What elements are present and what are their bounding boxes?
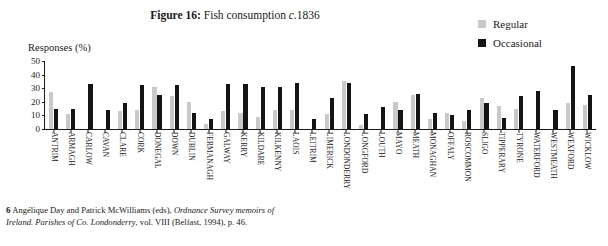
bar-occasional <box>536 91 540 129</box>
x-axis-label: OFFALY <box>445 132 454 160</box>
bar-series-container <box>45 61 596 129</box>
x-axis-label: LONGFORD <box>359 132 368 173</box>
bar-group <box>217 61 234 129</box>
x-label-cell: LAOIS <box>286 132 303 198</box>
bar-regular <box>118 111 122 129</box>
x-label-cell: LONDONDERRY <box>338 132 355 198</box>
bar-occasional <box>553 110 557 129</box>
bar-group <box>441 61 458 129</box>
bar-group <box>79 61 96 129</box>
x-axis-label: WEXFORD <box>566 132 575 170</box>
bar-occasional <box>140 85 144 129</box>
bar-occasional <box>433 113 437 129</box>
x-axis-label: WESTMEATH <box>548 132 557 179</box>
x-axis-label: MEATH <box>411 132 420 158</box>
bar-occasional <box>450 115 454 129</box>
x-label-cell: KILDARE <box>252 132 269 198</box>
bar-occasional <box>571 66 575 129</box>
bar-occasional <box>502 118 506 129</box>
bar-group <box>166 61 183 129</box>
x-label-cell: ANTRIM <box>45 132 62 198</box>
bar-regular <box>204 124 208 129</box>
bar-regular <box>221 111 225 129</box>
x-label-cell: LOUTH <box>372 132 389 198</box>
bar-occasional <box>192 113 196 129</box>
x-label-cell: WICKLOW <box>579 132 596 198</box>
bar-occasional <box>347 83 351 129</box>
bar-occasional <box>278 87 282 129</box>
bar-occasional <box>364 114 368 129</box>
bar-regular <box>445 113 449 129</box>
bar-regular <box>66 114 70 129</box>
bar-occasional <box>106 110 110 129</box>
bar-regular <box>342 81 346 129</box>
y-tick-label: 0 <box>20 125 40 134</box>
x-axis-label: CAVAN <box>101 132 110 157</box>
x-label-cell: WEXFORD <box>562 132 579 198</box>
x-axis-label: FERMANAGH <box>204 132 213 180</box>
x-label-cell: CARLOW <box>79 132 96 198</box>
bar-group <box>45 61 62 129</box>
x-label-cell: MEATH <box>407 132 424 198</box>
x-axis-label: ANTRIM <box>49 132 58 162</box>
bar-occasional <box>88 84 92 129</box>
y-tick-label: 30 <box>20 84 40 93</box>
x-axis-label: ARMAGH <box>66 132 75 166</box>
bar-regular <box>566 103 570 129</box>
x-label-cell: ARMAGH <box>62 132 79 198</box>
bar-occasional <box>416 94 420 129</box>
bar-group <box>372 61 389 129</box>
bar-regular <box>325 114 329 129</box>
bar-occasional <box>381 107 385 129</box>
bar-regular <box>238 113 242 129</box>
bar-group <box>303 61 320 129</box>
bar-group <box>338 61 355 129</box>
bar-occasional <box>330 98 334 129</box>
footnote-text-b: , vol. VIII (Belfast, 1994), p. 46. <box>136 217 248 227</box>
x-axis-label: LONDONDERRY <box>342 132 351 190</box>
bar-occasional <box>175 85 179 129</box>
y-tick-label: 50 <box>20 57 40 66</box>
x-axis-label: CLARE <box>118 132 127 157</box>
bar-regular <box>393 102 397 129</box>
x-axis-label: TIPPERARY <box>497 132 506 173</box>
bar-regular <box>583 105 587 129</box>
x-axis-label: LOUTH <box>376 132 385 158</box>
x-label-cell: FERMANAGH <box>200 132 217 198</box>
x-axis-label: DONEGAL <box>152 132 161 169</box>
x-axis-label: WICKLOW <box>583 132 592 170</box>
bar-group <box>562 61 579 129</box>
bar-regular <box>497 106 501 129</box>
bar-regular <box>152 87 156 129</box>
bar-occasional <box>484 103 488 129</box>
x-label-cell: CAVAN <box>97 132 114 198</box>
x-axis-line <box>44 129 596 130</box>
x-label-cell: SLIGO <box>475 132 492 198</box>
x-axis-label: KILDARE <box>256 132 265 165</box>
x-label-cell: LIMERICK <box>321 132 338 198</box>
x-label-cell: WATERFORD <box>527 132 544 198</box>
bar-occasional <box>312 119 316 129</box>
y-tick-label: 10 <box>20 111 40 120</box>
bar-regular <box>256 117 260 129</box>
bar-occasional <box>54 109 58 129</box>
x-label-cell: KERRY <box>234 132 251 198</box>
bar-occasional <box>123 103 127 129</box>
x-axis-label: LIMERICK <box>325 132 334 169</box>
y-tick-label: 20 <box>20 97 40 106</box>
bar-occasional <box>519 96 523 129</box>
footnote: 6 Angélique Day and Patrick McWilliams (… <box>6 205 296 228</box>
bar-group <box>183 61 200 129</box>
x-label-cell: TYRONE <box>510 132 527 198</box>
bar-group <box>544 61 561 129</box>
bar-occasional <box>243 84 247 129</box>
bar-occasional <box>398 110 402 129</box>
bar-group <box>458 61 475 129</box>
x-axis-label: TYRONE <box>514 132 523 163</box>
bar-group <box>269 61 286 129</box>
chart-plot-area: 01020304050 ANTRIMARMAGHCARLOWCAVANCLARE… <box>0 0 608 200</box>
bar-occasional <box>209 119 213 129</box>
x-label-cell: CLARE <box>114 132 131 198</box>
bar-group <box>493 61 510 129</box>
x-label-cell: DOWN <box>166 132 183 198</box>
